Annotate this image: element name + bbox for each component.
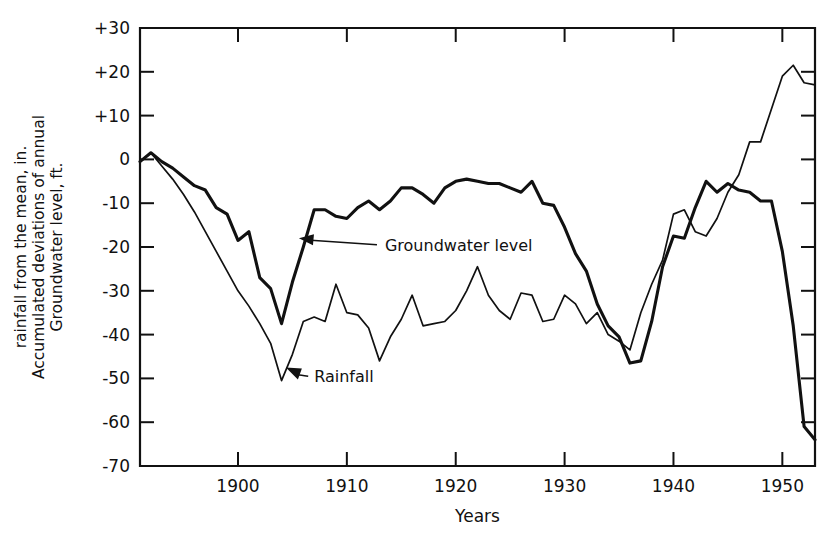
x-tick-label: 1950 bbox=[761, 476, 804, 496]
x-axis-ticks: 190019101920193019401950 bbox=[216, 28, 804, 496]
y-axis-title-line: Groundwater level, ft. bbox=[48, 162, 66, 331]
y-tick-label: -10 bbox=[102, 193, 130, 213]
x-axis-title-label: Years bbox=[454, 506, 500, 526]
y-tick-label: -70 bbox=[102, 456, 130, 476]
y-tick-label: 0 bbox=[119, 149, 130, 169]
groundwater-series-label: Groundwater level bbox=[385, 236, 533, 255]
y-axis-title-line: rainfall from the mean, in. bbox=[12, 146, 30, 349]
x-tick-label: 1930 bbox=[543, 476, 586, 496]
series-line-rainfall bbox=[140, 65, 815, 380]
chart-annotations: Groundwater levelRainfall bbox=[286, 234, 533, 386]
y-tick-label: +30 bbox=[94, 18, 130, 38]
y-tick-label: -60 bbox=[102, 412, 130, 432]
x-tick-label: 1910 bbox=[325, 476, 368, 496]
y-tick-label: +20 bbox=[94, 62, 130, 82]
chart-figure: +30+20+100-10-20-30-40-50-60-70 19001910… bbox=[0, 0, 840, 540]
x-tick-label: 1940 bbox=[652, 476, 695, 496]
y-tick-label: -20 bbox=[102, 237, 130, 257]
y-tick-label: -30 bbox=[102, 281, 130, 301]
chart-svg: +30+20+100-10-20-30-40-50-60-70 19001910… bbox=[0, 0, 840, 540]
y-axis-title-line: Accumulated deviations of annual bbox=[30, 115, 48, 379]
y-axis-title: Groundwater level, ft.Accumulated deviat… bbox=[12, 115, 66, 379]
groundwater-leader-line bbox=[311, 240, 377, 245]
y-tick-label: -50 bbox=[102, 368, 130, 388]
rainfall-arrowhead bbox=[286, 367, 302, 379]
x-tick-label: 1920 bbox=[434, 476, 477, 496]
rainfall-series-label: Rainfall bbox=[314, 367, 373, 386]
x-tick-label: 1900 bbox=[216, 476, 259, 496]
y-tick-label: +10 bbox=[94, 106, 130, 126]
y-tick-label: -40 bbox=[102, 325, 130, 345]
